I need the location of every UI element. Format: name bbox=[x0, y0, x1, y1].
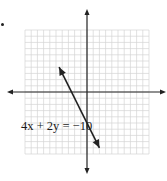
coordinate-plane bbox=[0, 0, 167, 181]
x-axis-right-arrow-icon bbox=[160, 90, 166, 95]
x-axis-left-arrow-icon bbox=[7, 90, 13, 95]
y-axis-down-arrow-icon bbox=[85, 168, 90, 174]
y-axis-up-arrow-icon bbox=[85, 9, 90, 15]
equation-label: 4x + 2y = −10 bbox=[21, 119, 92, 134]
